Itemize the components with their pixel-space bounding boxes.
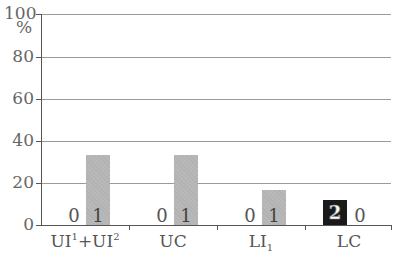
- bar-label: 1: [174, 205, 198, 226]
- y-tick: [36, 57, 41, 58]
- x-label-part: UI: [50, 231, 71, 251]
- y-label-80: 80: [4, 48, 34, 65]
- bar-label: 0: [62, 205, 86, 226]
- bar-label: 0: [150, 205, 174, 226]
- bar-label: 1: [86, 205, 110, 226]
- gridline-100: [41, 14, 391, 15]
- x-tick: [217, 225, 218, 230]
- x-tick: [129, 225, 130, 230]
- x-label-ui1-ui2: UI1+UI2: [41, 231, 129, 251]
- gridline-80: [41, 57, 391, 58]
- x-label-part: 1: [267, 242, 273, 253]
- x-label-li1: LI1: [217, 231, 305, 253]
- x-label-lc: LC: [305, 231, 393, 251]
- y-label-60: 60: [4, 90, 34, 107]
- x-label-part: 2: [113, 231, 119, 242]
- x-tick: [305, 225, 306, 230]
- bar-label: 0: [348, 205, 372, 226]
- y-label-40: 40: [4, 132, 34, 149]
- gridline-40: [41, 141, 391, 142]
- x-tick: [391, 225, 392, 230]
- y-tick: [36, 99, 41, 100]
- x-label-uc: UC: [129, 231, 217, 251]
- y-unit-label: %: [16, 17, 32, 37]
- bar-label: 2: [323, 202, 347, 223]
- x-label-part: +UI: [78, 231, 113, 251]
- y-tick: [36, 14, 41, 15]
- x-label-part: LI: [249, 231, 267, 251]
- y-tick: [36, 141, 41, 142]
- y-axis: [41, 14, 42, 226]
- bar-label: 1: [262, 205, 286, 226]
- y-tick: [36, 183, 41, 184]
- gridline-60: [41, 99, 391, 100]
- bar-label: 0: [238, 205, 262, 226]
- y-label-0: 0: [4, 216, 34, 233]
- y-label-20: 20: [4, 174, 34, 191]
